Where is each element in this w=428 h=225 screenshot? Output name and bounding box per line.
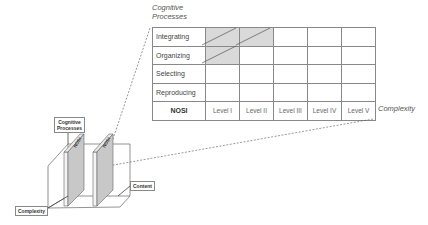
- cube-label-content: Content: [130, 181, 155, 191]
- projection-lines: [108, 28, 373, 166]
- diagram-graphics: NOSI NOSI: [0, 0, 428, 225]
- cube-outline: [48, 144, 130, 208]
- cube-label-cognitive-processes: Cognitive Processes: [54, 117, 85, 133]
- cube-label-line2: Processes: [57, 125, 82, 131]
- cell-diagonals: [202, 28, 270, 63]
- cube-label-complexity: Complexity: [15, 206, 48, 216]
